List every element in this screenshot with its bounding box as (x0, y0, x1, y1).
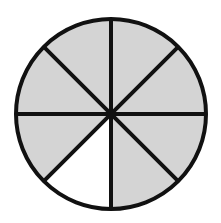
fraction-circle-svg (0, 0, 221, 223)
fraction-circle-diagram (0, 0, 221, 223)
center-point (108, 111, 115, 118)
